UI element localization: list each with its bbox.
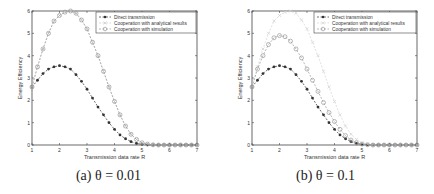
star-marker <box>53 65 56 68</box>
legend-entry: Cooperation with simulation <box>114 27 173 32</box>
star-marker <box>58 64 61 67</box>
y-tick-label: 2 <box>27 97 30 103</box>
x-tick-label: 3 <box>306 147 309 153</box>
star-marker <box>47 68 50 71</box>
star-marker <box>102 113 105 116</box>
star-marker <box>284 65 287 68</box>
x-tick-label: 5 <box>141 147 144 153</box>
star-marker <box>119 134 122 137</box>
star-marker <box>69 68 72 71</box>
star-marker <box>91 97 94 100</box>
legend-entry: Cooperation with simulation <box>332 27 391 32</box>
y-tick-label: 6 <box>27 8 30 14</box>
star-marker <box>262 72 265 75</box>
x-tick-label: 5 <box>361 147 364 153</box>
star-marker <box>311 97 314 100</box>
x-axis-label: Transmission data rate R <box>304 154 365 160</box>
star-marker <box>278 64 281 67</box>
y-tick-label: 0 <box>27 142 30 148</box>
x-tick-label: 7 <box>416 147 419 153</box>
y-tick-label: 1 <box>27 120 30 126</box>
caption-a: (a) θ = 0.01 <box>0 168 217 184</box>
x-tick-label: 6 <box>388 147 391 153</box>
star-marker <box>267 68 270 71</box>
x-tick-label: 2 <box>278 147 281 153</box>
legend-entry: Cooperation with analytical results <box>332 21 405 26</box>
star-marker <box>42 72 45 75</box>
star-marker <box>289 68 292 71</box>
star-marker <box>256 79 259 82</box>
y-tick-label: 5 <box>27 30 30 36</box>
y-tick-label: 4 <box>247 53 250 59</box>
star-marker <box>135 142 138 145</box>
star-marker <box>300 80 303 83</box>
star-marker <box>64 65 67 68</box>
star-marker <box>36 79 39 82</box>
legend-entry: Direct transmission <box>114 15 155 20</box>
x-tick-label: 4 <box>333 147 336 153</box>
star-marker <box>80 80 83 83</box>
y-tick-label: 0 <box>247 142 250 148</box>
x-tick-label: 1 <box>251 147 254 153</box>
star-marker <box>317 106 320 109</box>
x-tick-label: 1 <box>31 147 34 153</box>
chart-panel-a: 12345670123456Transmission data rate REn… <box>0 0 217 194</box>
star-marker <box>75 73 78 76</box>
y-tick-label: 4 <box>27 53 30 59</box>
star-marker <box>97 106 100 109</box>
plot-b: 12345670123456Transmission data rate REn… <box>217 0 434 165</box>
legend-star-icon <box>322 16 325 19</box>
star-marker <box>295 73 298 76</box>
plot-a: 12345670123456Transmission data rate REn… <box>0 0 217 165</box>
y-tick-label: 1 <box>247 120 250 126</box>
star-marker <box>130 140 133 143</box>
star-marker <box>124 137 127 140</box>
x-tick-label: 6 <box>168 147 171 153</box>
x-axis-label: Transmission data rate R <box>84 154 145 160</box>
x-tick-label: 3 <box>86 147 89 153</box>
legend-entry: Cooperation with analytical results <box>114 21 187 26</box>
star-marker <box>339 134 342 137</box>
legend-entry: Direct transmission <box>332 15 373 20</box>
y-tick-label: 5 <box>247 30 250 36</box>
legend-star-icon <box>104 16 107 19</box>
star-marker <box>273 65 276 68</box>
star-marker <box>306 88 309 91</box>
x-tick-label: 7 <box>196 147 199 153</box>
star-marker <box>108 121 111 124</box>
x-tick-label: 4 <box>113 147 116 153</box>
star-marker <box>86 88 89 91</box>
star-marker <box>333 128 336 131</box>
y-tick-label: 6 <box>247 8 250 14</box>
caption-b: (b) θ = 0.1 <box>217 168 434 184</box>
y-axis-label: Energy Efficiency <box>17 57 23 100</box>
star-marker <box>113 128 116 131</box>
chart-panel-b: 12345670123456Transmission data rate REn… <box>217 0 434 194</box>
x-tick-label: 2 <box>58 147 61 153</box>
y-tick-label: 2 <box>247 97 250 103</box>
y-tick-label: 3 <box>247 75 250 81</box>
y-axis-label: Energy Efficiency <box>237 57 243 100</box>
y-tick-label: 3 <box>27 75 30 81</box>
star-marker <box>322 113 325 116</box>
star-marker <box>328 121 331 124</box>
